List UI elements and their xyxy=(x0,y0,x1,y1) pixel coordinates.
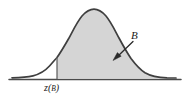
z-axis-tick-label: z(B) xyxy=(44,82,59,93)
bell-curve-diagram xyxy=(0,0,187,101)
region-label-b: B xyxy=(131,29,138,41)
shaded-area-B xyxy=(57,9,176,78)
z-label-close-paren: ) xyxy=(56,82,59,93)
normal-distribution-figure: z(B) B xyxy=(0,0,187,101)
